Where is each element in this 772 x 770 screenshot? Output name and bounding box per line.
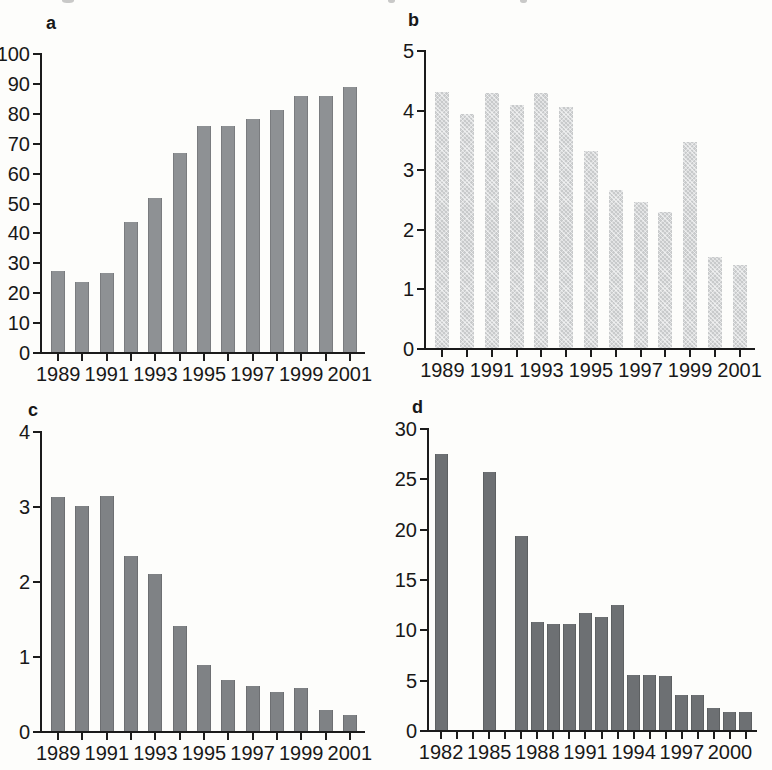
x-tick [300, 733, 302, 740]
y-tick-label: 0 [370, 339, 414, 359]
y-axis-line [424, 50, 426, 350]
x-tick-label: 1997 [225, 743, 281, 763]
x-tick [729, 732, 731, 739]
x-tick [57, 733, 59, 740]
x-tick [504, 732, 506, 739]
x-tick [276, 733, 278, 740]
x-tick [590, 350, 592, 357]
x-tick [540, 350, 542, 357]
y-tick [33, 322, 40, 324]
y-tick-label: 3 [370, 160, 414, 180]
chart-panel-b: b 0123451989199119931995199719992001 [386, 0, 772, 385]
bar-1993 [534, 93, 548, 348]
y-tick [420, 579, 427, 581]
bar-1998 [270, 692, 284, 731]
x-tick [203, 354, 205, 361]
bar-1999 [707, 708, 720, 730]
x-tick-label: 1991 [79, 743, 135, 763]
bar-2001 [733, 265, 747, 348]
y-tick [420, 478, 427, 480]
bar-2000 [319, 96, 333, 352]
y-tick [33, 581, 40, 583]
y-tick-label: 3 [0, 497, 30, 517]
chart-panel-a: a 01020304050607080901001989199119931995… [0, 0, 386, 385]
x-tick [227, 354, 229, 361]
y-axis-line [40, 431, 42, 733]
y-tick-label: 4 [370, 101, 414, 121]
x-tick [130, 354, 132, 361]
y-tick-label: 20 [373, 520, 417, 540]
x-tick-label: 2000 [702, 742, 758, 762]
y-tick-label: 10 [0, 313, 30, 333]
x-tick [739, 350, 741, 357]
y-axis-line [427, 428, 429, 732]
y-tick-label: 15 [373, 570, 417, 590]
bar-2000 [723, 712, 736, 730]
y-tick-label: 5 [373, 671, 417, 691]
x-tick [179, 354, 181, 361]
plot-area-b: 0123451989199119931995199719992001 [386, 0, 772, 385]
x-tick [520, 732, 522, 739]
x-tick [617, 732, 619, 739]
y-tick-label: 1 [0, 647, 30, 667]
bar-1985 [483, 472, 496, 730]
x-tick [516, 350, 518, 357]
y-tick [420, 428, 427, 430]
y-tick [33, 656, 40, 658]
x-tick [203, 733, 205, 740]
y-tick-label: 30 [0, 253, 30, 273]
x-tick [227, 733, 229, 740]
y-tick-label: 25 [373, 469, 417, 489]
y-tick [417, 110, 424, 112]
bar-1991 [579, 613, 592, 730]
x-tick-label: 2001 [712, 360, 768, 380]
four-panel-bar-figure: a 01020304050607080901001989199119931995… [0, 0, 772, 770]
x-tick [491, 350, 493, 357]
bar-1994 [173, 626, 187, 731]
x-tick [713, 732, 715, 739]
y-tick [33, 292, 40, 294]
bar-1982 [435, 454, 448, 730]
y-tick-label: 4 [0, 422, 30, 442]
x-tick [154, 733, 156, 740]
y-tick-label: 50 [0, 194, 30, 214]
bar-1997 [634, 202, 648, 348]
bar-2000 [708, 257, 722, 348]
bar-1995 [197, 126, 211, 352]
x-tick-label: 1999 [662, 360, 718, 380]
x-tick [689, 350, 691, 357]
plot-area-d: 0510152025301982198519881991199419972000 [386, 385, 772, 770]
y-tick [417, 169, 424, 171]
x-tick [325, 354, 327, 361]
y-axis-line [40, 53, 42, 354]
x-tick [106, 733, 108, 740]
x-tick [714, 350, 716, 357]
y-tick-label: 2 [0, 572, 30, 592]
x-tick-label: 2001 [322, 364, 378, 384]
x-tick [745, 732, 747, 739]
y-tick-label: 2 [370, 220, 414, 240]
y-tick-label: 60 [0, 164, 30, 184]
x-tick [325, 733, 327, 740]
x-tick [552, 732, 554, 739]
y-tick [417, 229, 424, 231]
y-tick [420, 529, 427, 531]
bar-1993 [148, 198, 162, 352]
x-tick [664, 350, 666, 357]
y-tick-label: 100 [0, 44, 30, 64]
y-tick-label: 40 [0, 223, 30, 243]
x-tick [276, 354, 278, 361]
x-tick-label: 1995 [563, 360, 619, 380]
bar-1996 [221, 680, 235, 731]
bar-1991 [100, 273, 114, 352]
y-tick-label: 0 [0, 722, 30, 742]
bar-1997 [246, 686, 260, 731]
bar-1999 [294, 96, 308, 352]
y-tick-label: 0 [373, 721, 417, 741]
bar-1996 [609, 190, 623, 348]
x-tick [252, 733, 254, 740]
y-tick [33, 83, 40, 85]
bar-1992 [510, 105, 524, 348]
bar-1990 [460, 114, 474, 348]
x-tick [640, 350, 642, 357]
